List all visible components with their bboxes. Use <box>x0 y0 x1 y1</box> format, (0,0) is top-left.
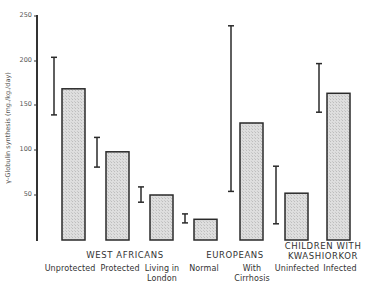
category-label-cirrhosis: Cirrhosis <box>232 274 272 283</box>
bar-protected <box>106 152 129 240</box>
y-tick-250: 250 <box>12 11 32 19</box>
y-axis-label: γ-Globulin synthesis (mg./kg./day) <box>4 58 12 198</box>
bar-living-in-london <box>150 195 173 240</box>
bar-infected <box>327 93 350 240</box>
y-axis <box>34 15 37 241</box>
category-label-protected: Protected <box>98 264 142 273</box>
range-bar-infected <box>316 64 322 113</box>
y-tick-100: 100 <box>12 145 32 153</box>
range-bar-unprotected <box>51 57 57 115</box>
bar-with-cirrhosis <box>240 123 263 240</box>
category-label-normal: Normal <box>186 264 222 273</box>
category-label-uninfected: Uninfected <box>274 264 320 273</box>
category-label-london: London <box>142 274 182 283</box>
group-label-west-africans: WEST AFRICANS <box>80 250 170 260</box>
range-bar-protected <box>94 137 100 167</box>
category-label-living-in: Living in <box>142 264 182 273</box>
range-bar-with-cirrhosis <box>228 26 234 192</box>
y-tick-200: 200 <box>12 56 32 64</box>
range-bar-living-in-london <box>138 187 144 202</box>
category-label-with: With <box>232 264 272 273</box>
y-tick-50: 50 <box>12 190 32 198</box>
group-label-children-b: KWASHIORKOR <box>280 251 366 261</box>
bar-normal <box>194 219 217 240</box>
group-label-europeans: EUROPEANS <box>200 250 270 260</box>
bars <box>62 89 350 240</box>
range-bar-normal <box>182 214 188 223</box>
range-bar-uninfected <box>273 166 279 224</box>
bar-uninfected <box>285 193 308 240</box>
bar-unprotected <box>62 89 85 240</box>
y-tick-150: 150 <box>12 100 32 108</box>
range-bars <box>51 26 322 224</box>
category-label-unprotected: Unprotected <box>44 264 96 273</box>
category-label-infected: Infected <box>320 264 360 273</box>
group-label-children-a: CHILDREN WITH <box>280 241 366 251</box>
